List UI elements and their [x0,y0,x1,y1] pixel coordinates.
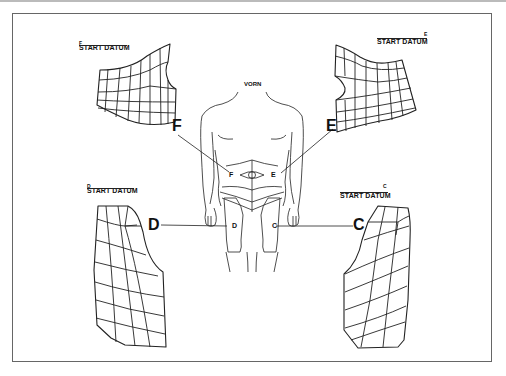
datum-rule-e [377,38,427,39]
pointer-letter-e: E [326,117,337,135]
grid-panel-f [97,44,176,125]
pointer-letter-d: D [148,216,160,234]
pointer-letter-f: F [172,117,182,135]
body-letter-f: F [229,171,233,178]
pointer-line-f [178,135,229,172]
datum-rule-c [340,192,388,193]
datum-label-e: START DATUM [377,38,428,45]
grid-panel-e [335,45,416,132]
body-letter-e: E [271,171,276,178]
body-letter-c: C [272,222,277,229]
body-letter-d: D [232,222,237,229]
front-label: VORN [244,81,261,87]
datum-rule-f [79,45,127,46]
pointer-line-d [161,225,227,226]
datum-rule-d [87,188,134,189]
datum-label-c: START DATUM [340,192,391,199]
datum-letter-c: C [383,183,387,189]
datum-letter-e: E [424,31,427,37]
diagram-drawing [0,0,506,376]
pointer-letter-c: C [353,216,365,234]
body-figure [201,92,304,272]
